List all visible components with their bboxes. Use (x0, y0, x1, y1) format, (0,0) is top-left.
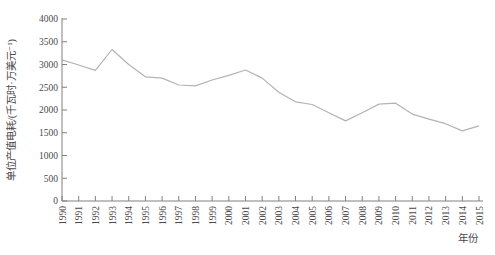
x-tick-label: 2011 (408, 206, 418, 225)
x-tick-label: 1997 (174, 206, 184, 225)
y-axis-title: 单位产值电耗/(千瓦时·万美元⁻¹) (5, 38, 18, 181)
y-tick-label: 500 (44, 174, 59, 184)
x-tick-label: 2015 (475, 206, 485, 225)
y-tick-label: 2500 (39, 83, 58, 93)
y-tick-label: 3000 (39, 60, 58, 70)
x-tick-label: 1990 (58, 206, 68, 225)
x-tick-label: 1995 (141, 206, 151, 225)
x-tick-label: 2014 (458, 206, 468, 225)
x-tick-label: 2000 (224, 206, 234, 225)
x-tick-label: 2009 (374, 206, 384, 225)
x-tick-label: 2010 (391, 206, 401, 225)
x-tick-label: 2013 (441, 206, 451, 225)
y-tick-label: 1000 (39, 151, 58, 161)
y-tick-label: 4000 (39, 14, 58, 24)
chart-figure: 0500100015002000250030003500400019901991… (0, 0, 495, 255)
y-tick-label: 2000 (39, 105, 58, 115)
x-tick-label: 2007 (341, 206, 351, 225)
x-tick-label: 1994 (124, 206, 134, 225)
x-tick-label: 2004 (291, 206, 301, 225)
x-tick-label: 2005 (308, 206, 318, 225)
y-tick-label: 3500 (39, 37, 58, 47)
x-tick-label: 1998 (191, 206, 201, 225)
data-line-series (62, 50, 479, 131)
x-tick-label: 1993 (108, 206, 118, 225)
x-axis-title: 年份 (458, 232, 479, 244)
chart-generated-group: 0500100015002000250030003500400019901991… (39, 14, 485, 225)
x-tick-label: 2006 (324, 206, 334, 225)
x-tick-label: 2001 (241, 206, 251, 225)
y-tick-label: 1500 (39, 128, 58, 138)
y-tick-label: 0 (53, 196, 58, 206)
x-tick-label: 1992 (91, 206, 101, 225)
x-tick-label: 2012 (424, 206, 434, 225)
x-tick-label: 2008 (358, 206, 368, 225)
x-tick-label: 2002 (258, 206, 268, 225)
x-tick-label: 1991 (74, 206, 84, 225)
line-chart-svg: 0500100015002000250030003500400019901991… (0, 0, 495, 255)
x-tick-label: 1996 (158, 206, 168, 225)
x-tick-label: 1999 (208, 206, 218, 225)
x-tick-label: 2003 (274, 206, 284, 225)
